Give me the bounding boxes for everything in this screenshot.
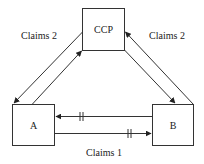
party-b-node: B (153, 105, 194, 146)
a-b-edge-label: Claims 1 (86, 147, 122, 158)
party-a-label: A (30, 120, 38, 131)
clearing-diagram: CCP A B Claims 2 Claims 2 Claims 1 (0, 0, 204, 164)
ccp-b-edge-label: Claims 2 (149, 30, 185, 41)
arrow-b-to-ccp (126, 32, 194, 105)
ccp-a-edges (14, 32, 83, 105)
ccp-node: CCP (83, 9, 125, 51)
a-b-edges (55, 112, 153, 138)
ccp-label: CCP (94, 24, 113, 35)
arrow-ccp-to-a (14, 32, 83, 103)
ccp-a-edge-label: Claims 2 (21, 30, 57, 41)
ccp-b-edges (125, 32, 194, 105)
party-a-node: A (13, 105, 55, 146)
party-b-label: B (170, 120, 177, 131)
